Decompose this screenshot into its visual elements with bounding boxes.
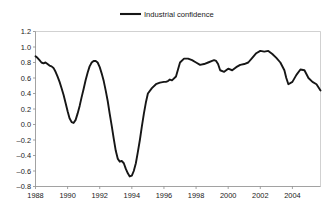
x-axis-ticks: 198819901992199419961998200020022004 xyxy=(27,187,300,201)
y-tick-label: 1.2 xyxy=(21,27,31,36)
y-tick-label: –0.6 xyxy=(17,167,31,176)
y-tick-label: –0.8 xyxy=(17,182,31,191)
x-tick-label: 2000 xyxy=(220,191,236,200)
x-tick-label: 1998 xyxy=(188,191,204,200)
x-tick-label: 1996 xyxy=(156,191,172,200)
x-tick-label: 2002 xyxy=(252,191,268,200)
y-tick-label: 1.0 xyxy=(21,43,31,52)
x-tick-label: 1992 xyxy=(91,191,107,200)
data-series-group xyxy=(36,51,321,177)
line-chart: Industrial confidence 1.21.00.80.60.40.2… xyxy=(0,0,331,216)
x-tick-label: 2004 xyxy=(284,191,300,200)
y-tick-label: 0.2 xyxy=(21,105,31,114)
y-tick-label: 0.0 xyxy=(21,120,31,129)
y-tick-label: 0.6 xyxy=(21,74,31,83)
legend-label: Industrial confidence xyxy=(144,10,214,19)
y-tick-label: 0.8 xyxy=(21,58,31,67)
x-tick-label: 1990 xyxy=(59,191,75,200)
chart-container: Industrial confidence 1.21.00.80.60.40.2… xyxy=(0,0,331,216)
y-tick-label: –0.4 xyxy=(17,151,31,160)
y-axis-ticks: 1.21.00.80.60.40.20.0–0.2–0.4–0.6–0.8 xyxy=(17,27,36,191)
chart-legend: Industrial confidence xyxy=(120,10,214,19)
y-tick-label: 0.4 xyxy=(21,89,31,98)
series-line-industrial-confidence xyxy=(36,51,321,177)
x-tick-label: 1988 xyxy=(27,191,43,200)
y-tick-label: –0.2 xyxy=(17,136,31,145)
x-tick-label: 1994 xyxy=(124,191,140,200)
